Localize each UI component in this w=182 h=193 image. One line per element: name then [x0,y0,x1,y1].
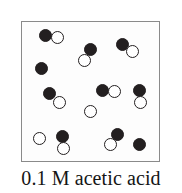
particle-open-5 [108,85,121,98]
solution-container-box [21,21,160,162]
particle-open-8 [33,132,46,145]
acetic-acid-particle-diagram: 0.1 M acetic acid [0,0,182,193]
particle-filled-7 [133,84,146,97]
particle-open-1 [51,31,64,44]
particle-open-4 [53,96,66,109]
particle-open-3 [126,45,139,58]
particle-filled-8 [56,130,69,143]
particle-filled-6 [96,84,109,97]
figure-caption: 0.1 M acetic acid [0,163,182,193]
particle-open-7 [84,105,97,118]
particle-filled-1 [39,29,52,42]
particle-open-2 [78,54,91,67]
particle-open-6 [134,96,147,109]
particle-open-10 [104,138,117,151]
particle-filled-4 [35,62,48,75]
particle-filled-10 [133,138,146,151]
particle-open-9 [57,142,70,155]
